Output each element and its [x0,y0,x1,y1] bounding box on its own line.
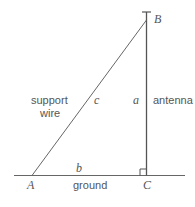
ground-label: ground [73,179,107,191]
vertex-c-label: C [143,178,152,192]
side-a-label: a [133,93,139,107]
support-wire-label-line2: wire [39,107,60,119]
side-b-label: b [76,161,82,175]
support-wire-label-line1: support [31,94,68,106]
vertex-a-label: A [26,178,35,192]
side-c-label: c [94,93,100,107]
right-angle-marker [140,169,147,176]
antenna-triangle-diagram: B A C c a b support wire antenna ground [0,0,195,207]
vertex-b-label: B [154,12,162,26]
antenna-label: antenna [153,94,194,106]
